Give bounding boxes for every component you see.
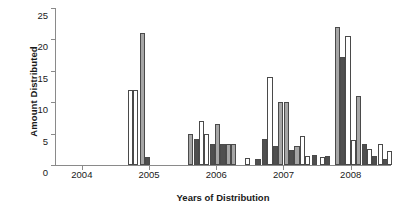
bar-series <box>55 8 391 166</box>
bar <box>255 159 260 165</box>
y-tick-mark <box>51 8 55 9</box>
y-tick-label: 25 <box>37 11 48 21</box>
y-tick-label: 5 <box>43 137 48 147</box>
y-tick-mark <box>51 134 55 135</box>
x-tick-label: 2006 <box>206 170 227 180</box>
x-tick-label: 2004 <box>71 170 92 180</box>
y-axis-tick-labels: 0510152025 <box>22 8 48 166</box>
y-tick-mark <box>51 165 55 166</box>
bar <box>325 156 330 165</box>
y-tick-mark <box>51 39 55 40</box>
bar <box>245 158 250 165</box>
y-tick-mark <box>51 102 55 103</box>
bar <box>145 157 150 165</box>
x-tick-label: 2008 <box>340 170 361 180</box>
x-axis-tick-labels: 20042005200620072008 <box>55 170 391 184</box>
bar <box>305 156 310 165</box>
bar <box>133 90 138 165</box>
y-tick-mark <box>51 71 55 72</box>
y-tick-label: 15 <box>37 74 48 84</box>
bar <box>312 155 317 165</box>
x-tick-label: 2005 <box>139 170 160 180</box>
x-axis-title: Years of Distribution <box>55 192 391 203</box>
y-tick-label: 0 <box>43 168 48 178</box>
y-tick-label: 10 <box>37 105 48 115</box>
x-tick-label: 2007 <box>273 170 294 180</box>
bar <box>387 151 392 165</box>
bar-chart: Amount Distributed 0510152025 2004200520… <box>0 0 412 218</box>
plot-area <box>55 8 391 166</box>
bar <box>231 144 236 165</box>
y-tick-label: 20 <box>37 43 48 53</box>
bar <box>140 33 145 165</box>
